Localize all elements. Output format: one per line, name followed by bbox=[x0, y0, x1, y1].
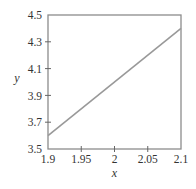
x-tick-labels: 1.9 1.95 2 2.05 2.1 bbox=[41, 153, 189, 165]
y-axis-label: y bbox=[13, 71, 20, 85]
x-tick-label: 2.05 bbox=[138, 153, 158, 165]
y-tick-label: 3.9 bbox=[28, 90, 43, 102]
y-tick-labels: 3.5 3.7 3.9 4.1 4.3 4.5 bbox=[28, 9, 43, 155]
x-tick-label: 1.95 bbox=[71, 153, 91, 165]
x-tick-label: 1.9 bbox=[41, 153, 56, 165]
data-line bbox=[48, 28, 181, 135]
y-tick-label: 4.1 bbox=[28, 63, 43, 75]
y-tick-label: 3.7 bbox=[28, 116, 43, 128]
x-tick-label: 2.1 bbox=[174, 153, 189, 165]
chart: 3.5 3.7 3.9 4.1 4.3 4.5 1.9 1.95 2 2.05 … bbox=[0, 0, 196, 189]
x-axis-label: x bbox=[111, 166, 118, 180]
y-tick-label: 4.3 bbox=[28, 36, 43, 48]
y-tick-label: 4.5 bbox=[28, 9, 43, 21]
x-tick-label: 2 bbox=[112, 153, 118, 165]
